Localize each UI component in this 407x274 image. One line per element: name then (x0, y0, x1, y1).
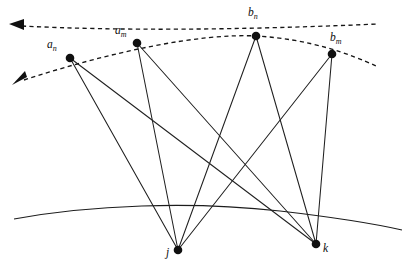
node-label-b_n: bn (248, 6, 258, 21)
node-b_n[interactable] (252, 32, 261, 41)
upper-dashed-ray (22, 24, 378, 29)
edge-a_n-k (70, 58, 316, 244)
edge-b_n-j (178, 36, 256, 250)
edge-a_m-j (137, 43, 178, 250)
node-j[interactable] (174, 246, 183, 255)
diagram-svg: anambnbmjk (0, 0, 407, 274)
edge-a_n-j (70, 58, 178, 250)
node-label-a_n: an (47, 38, 57, 53)
ground-arc (14, 205, 402, 230)
node-label-j: j (164, 246, 169, 259)
node-b_m[interactable] (328, 50, 337, 59)
node-label-k: k (323, 242, 329, 254)
node-a_m[interactable] (133, 39, 142, 48)
edge-b_m-k (316, 54, 332, 244)
lower-arrowhead (12, 71, 27, 85)
edge-a_m-k (137, 43, 316, 244)
lower-dashed-ray (24, 36, 376, 80)
node-k[interactable] (312, 240, 321, 249)
diagram-canvas: anambnbmjk (0, 0, 407, 274)
node-label-b_m: bm (330, 31, 342, 46)
edge-group (70, 36, 332, 250)
upper-arrowhead (9, 19, 24, 30)
node-label-a_m: am (115, 24, 127, 39)
node-a_n[interactable] (66, 54, 75, 63)
node-label-group: anambnbmjk (47, 6, 342, 259)
